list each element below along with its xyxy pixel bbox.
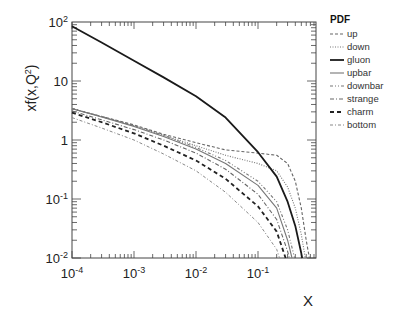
- legend-line-charm-icon: [330, 109, 344, 115]
- curve-downbar: [72, 109, 295, 258]
- y-tick-label: 1: [61, 133, 68, 148]
- y-tick-label: 102: [49, 14, 68, 30]
- legend-item-strange: strange: [330, 92, 383, 105]
- legend-label: downbar: [347, 80, 383, 91]
- curve-gluon: [72, 26, 302, 258]
- legend-line-upbar-icon: [330, 70, 344, 76]
- legend-line-down-icon: [330, 44, 344, 50]
- legend-item-downbar: downbar: [330, 79, 383, 92]
- x-axis-label: X: [303, 292, 313, 309]
- legend-line-up-icon: [330, 31, 344, 37]
- y-axis-label: xf(x,Q2): [23, 64, 39, 111]
- legend-item-charm: charm: [330, 105, 383, 118]
- legend-label: gluon: [347, 54, 370, 65]
- legend-label: up: [347, 28, 358, 39]
- x-tick-label: 10-2: [185, 265, 207, 281]
- legend-line-gluon-icon: [330, 57, 344, 63]
- curve-down: [72, 109, 305, 258]
- legend-item-gluon: gluon: [330, 53, 383, 66]
- svg-text:xf(x,Q2): xf(x,Q2): [23, 64, 39, 111]
- y-tick-label: 10-2: [46, 250, 68, 266]
- legend-label: down: [347, 41, 370, 52]
- legend-line-bottom-icon: [330, 122, 344, 128]
- legend-label: bottom: [347, 119, 376, 130]
- x-tick-label: 10-1: [247, 265, 269, 281]
- legend-line-strange-icon: [330, 96, 344, 102]
- curve-up: [72, 109, 309, 258]
- legend-label: upbar: [347, 67, 371, 78]
- y-tick-label: 10-1: [46, 191, 68, 207]
- legend-title: PDF: [330, 14, 383, 25]
- y-tick-label: 10: [54, 74, 68, 89]
- legend-label: charm: [347, 106, 373, 117]
- legend: PDF updowngluonupbardownbarstrangecharmb…: [330, 14, 383, 131]
- legend-item-down: down: [330, 40, 383, 53]
- legend-item-bottom: bottom: [330, 118, 383, 131]
- legend-item-up: up: [330, 27, 383, 40]
- legend-label: strange: [347, 93, 379, 104]
- legend-line-downbar-icon: [330, 83, 344, 89]
- x-tick-label: 10-3: [123, 265, 145, 281]
- legend-item-upbar: upbar: [330, 66, 383, 79]
- curve-upbar: [72, 109, 292, 258]
- x-tick-label: 10-4: [61, 265, 83, 281]
- curve-charm: [72, 113, 286, 258]
- plot-curves: [72, 26, 309, 258]
